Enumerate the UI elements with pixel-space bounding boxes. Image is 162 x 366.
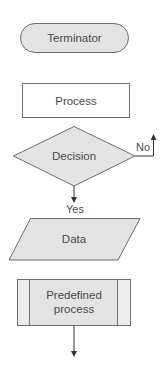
- terminator-label: Terminator: [47, 32, 101, 44]
- predefined-left-panel: [18, 280, 29, 325]
- predefined-label-line2: process: [54, 303, 95, 315]
- edge-yes: Yes: [66, 186, 84, 215]
- predefined-process-node: Predefined process: [18, 280, 131, 326]
- terminator-node: Terminator: [21, 24, 129, 53]
- edge-no: No: [135, 137, 154, 156]
- decision-label: Decision: [52, 150, 96, 162]
- process-label: Process: [55, 95, 97, 107]
- data-label: Data: [62, 233, 87, 245]
- predefined-right-panel: [118, 280, 130, 325]
- yes-label: Yes: [66, 203, 84, 215]
- decision-node: Decision: [14, 127, 136, 187]
- no-label: No: [136, 141, 150, 153]
- process-node: Process: [23, 84, 130, 118]
- flowchart-diagram: Terminator Process Decision No Yes Data …: [0, 0, 162, 366]
- predefined-label-line1: Predefined: [46, 289, 102, 301]
- data-node: Data: [9, 219, 140, 261]
